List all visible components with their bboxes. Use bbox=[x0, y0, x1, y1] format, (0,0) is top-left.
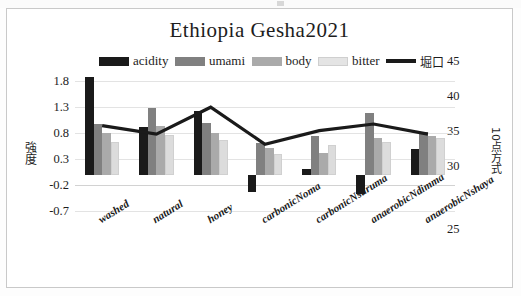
left-axis-tick-0-3: 0.3 bbox=[27, 152, 69, 167]
scan-artifact bbox=[0, 0, 521, 8]
bar-umami-anaerobicNshaya bbox=[419, 132, 428, 175]
scan-speck bbox=[277, 1, 284, 6]
bar-body-natural bbox=[156, 126, 165, 174]
bar-body-anaerobicNshaya bbox=[428, 136, 437, 174]
bar-acidity-honey bbox=[194, 111, 203, 174]
bar-acidity-carbonicNoma bbox=[248, 175, 257, 192]
plot-area: 強度 10点方式 45 40 35 30 25 1.8 1.3 0.8 0.3 … bbox=[7, 9, 514, 289]
right-axis-tick-30: 30 bbox=[447, 159, 487, 174]
right-axis-tick-45: 45 bbox=[447, 54, 487, 69]
bar-body-honey bbox=[211, 133, 220, 175]
bar-body-carbonicNsuruma bbox=[319, 153, 328, 175]
bar-body-anaerobicNdimma bbox=[374, 138, 383, 174]
bar-bitter-anaerobicNshaya bbox=[436, 138, 445, 174]
x-axis-label-carbonicNoma: carbonicNoma bbox=[259, 179, 322, 225]
gridline-0-8 bbox=[75, 133, 455, 134]
bar-body-carbonicNoma bbox=[265, 148, 274, 175]
left-axis-tick-minus-0-2: -0.2 bbox=[27, 178, 69, 193]
gridline-1-8 bbox=[75, 81, 455, 82]
bar-umami-natural bbox=[148, 108, 157, 175]
bar-bitter-anaerobicNdimma bbox=[382, 142, 391, 175]
bar-bitter-carbonicNsuruma bbox=[328, 145, 337, 175]
right-axis-tick-35: 35 bbox=[447, 124, 487, 139]
bar-umami-carbonicNsuruma bbox=[311, 136, 320, 175]
bar-acidity-anaerobicNshaya bbox=[411, 149, 420, 175]
bar-bitter-natural bbox=[165, 135, 174, 175]
left-axis-tick-1-3: 1.3 bbox=[27, 100, 69, 115]
bar-umami-washed bbox=[94, 124, 103, 175]
right-axis-tick-40: 40 bbox=[447, 89, 487, 104]
x-axis-label-honey: honey bbox=[205, 200, 235, 225]
left-axis-tick-minus-0-7: -0.7 bbox=[27, 204, 69, 219]
gridline-1-3 bbox=[75, 107, 455, 108]
page-root: Ethiopia Gesha2021 acidity umami body bi… bbox=[0, 0, 521, 296]
bar-acidity-natural bbox=[139, 127, 148, 175]
bar-umami-carbonicNoma bbox=[256, 143, 265, 174]
bar-bitter-honey bbox=[219, 140, 228, 174]
bar-acidity-washed bbox=[85, 77, 94, 174]
left-axis-tick-0-8: 0.8 bbox=[27, 126, 69, 141]
right-axis-title: 10点方式 bbox=[487, 127, 503, 174]
chart-frame: Ethiopia Gesha2021 acidity umami body bi… bbox=[6, 8, 513, 288]
bar-umami-anaerobicNdimma bbox=[365, 113, 374, 174]
bar-acidity-carbonicNsuruma bbox=[302, 169, 311, 174]
left-axis-tick-1-8: 1.8 bbox=[27, 74, 69, 89]
right-axis-tick-25: 25 bbox=[447, 222, 487, 237]
bar-bitter-washed bbox=[111, 142, 120, 174]
gridline-minus-0-2 bbox=[75, 185, 455, 186]
bar-body-washed bbox=[102, 133, 111, 175]
bar-umami-honey bbox=[202, 123, 211, 175]
bar-bitter-carbonicNoma bbox=[274, 154, 283, 175]
